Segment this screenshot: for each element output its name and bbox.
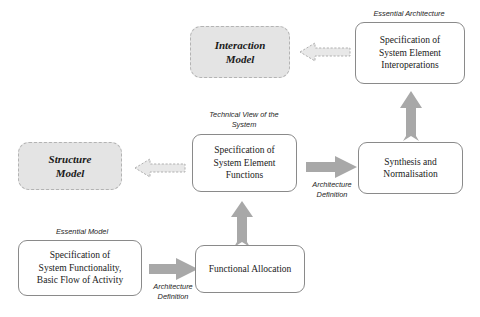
node-spec-functions: Specification of System Element Function… [192, 134, 297, 192]
caption-architecture-definition-middle: Architecture Definition [303, 180, 361, 199]
caption-architecture-definition-bottom: Architecture Definition [144, 282, 202, 301]
node-structure-model: Structure Model [18, 142, 122, 190]
node-synthesis-normalisation: Synthesis and Normalisation [358, 142, 463, 194]
node-functional-allocation-label: Functional Allocation [209, 263, 292, 276]
node-interaction-model: Interaction Model [190, 26, 290, 78]
node-spec-interoperations-label: Specification of System Element Interope… [379, 34, 441, 72]
arrow-functions-to-structure [133, 156, 187, 180]
caption-essential-architecture: Essential Architecture [349, 9, 469, 19]
node-spec-functionality-label: Specification of System Functionality, B… [37, 249, 123, 287]
node-spec-interoperations: Specification of System Element Interope… [355, 22, 465, 84]
arrow-allocation-to-functions [229, 200, 255, 248]
node-structure-model-label: Structure Model [49, 152, 92, 180]
arrow-functions-to-synthesis [305, 154, 359, 180]
diagram-canvas: Essential Architecture Specification of … [0, 0, 480, 317]
arrow-synthesis-to-interoperations [398, 90, 424, 142]
arrow-interoperations-to-interaction [298, 40, 352, 64]
arrow-functionality-to-allocation [148, 256, 200, 282]
node-functional-allocation: Functional Allocation [195, 245, 305, 293]
node-spec-functions-label: Specification of System Element Function… [213, 144, 275, 182]
node-interaction-model-label: Interaction Model [215, 38, 266, 66]
node-synthesis-normalisation-label: Synthesis and Normalisation [383, 156, 437, 181]
caption-technical-view: Technical View of the System [190, 110, 298, 129]
node-spec-functionality: Specification of System Functionality, B… [18, 240, 142, 296]
caption-essential-model: Essential Model [32, 227, 132, 237]
